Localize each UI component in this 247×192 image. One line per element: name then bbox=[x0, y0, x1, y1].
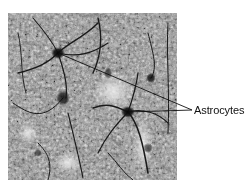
astrocytes-label: Astrocytes bbox=[194, 104, 244, 117]
micrograph-image bbox=[8, 13, 177, 180]
figure: Astrocytes bbox=[0, 0, 247, 192]
